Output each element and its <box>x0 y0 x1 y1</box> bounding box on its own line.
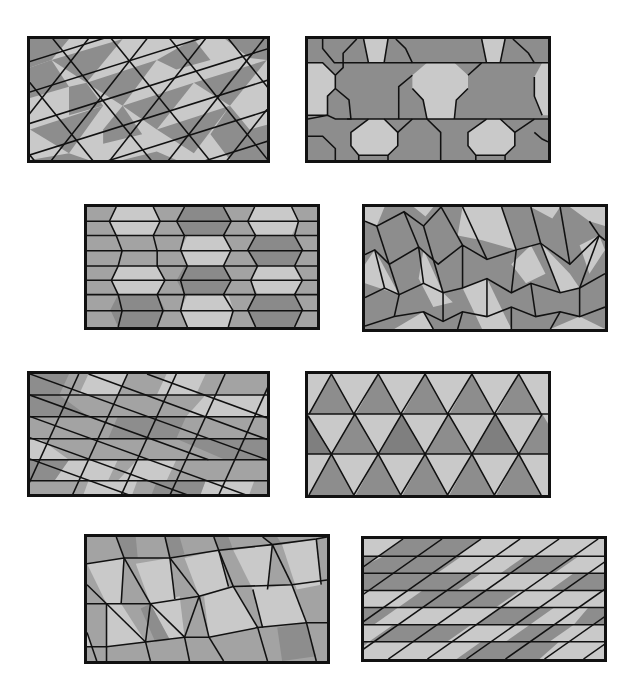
tiling-hexagon-columns <box>87 207 317 327</box>
tiling-equilateral-triangles <box>308 374 548 495</box>
tiling-zigzag-darts <box>365 207 605 329</box>
tiling-panel-7 <box>84 534 330 664</box>
tiling-skewed-quadrilaterals <box>87 537 327 661</box>
tiling-bands-diagonal <box>30 374 267 494</box>
tiling-panel-4 <box>362 204 608 332</box>
tiling-panel-8 <box>361 536 607 662</box>
tiling-triangles-slanted <box>30 39 267 160</box>
tiling-panel-6 <box>305 371 551 498</box>
tiling-panel-2 <box>305 36 551 163</box>
tiling-panel-5 <box>27 371 270 497</box>
tiling-panel-3 <box>84 204 320 330</box>
tiling-octagons-bowties <box>308 39 548 160</box>
tiling-parallelogram-bands <box>364 539 604 659</box>
tiling-panel-1 <box>27 36 270 163</box>
